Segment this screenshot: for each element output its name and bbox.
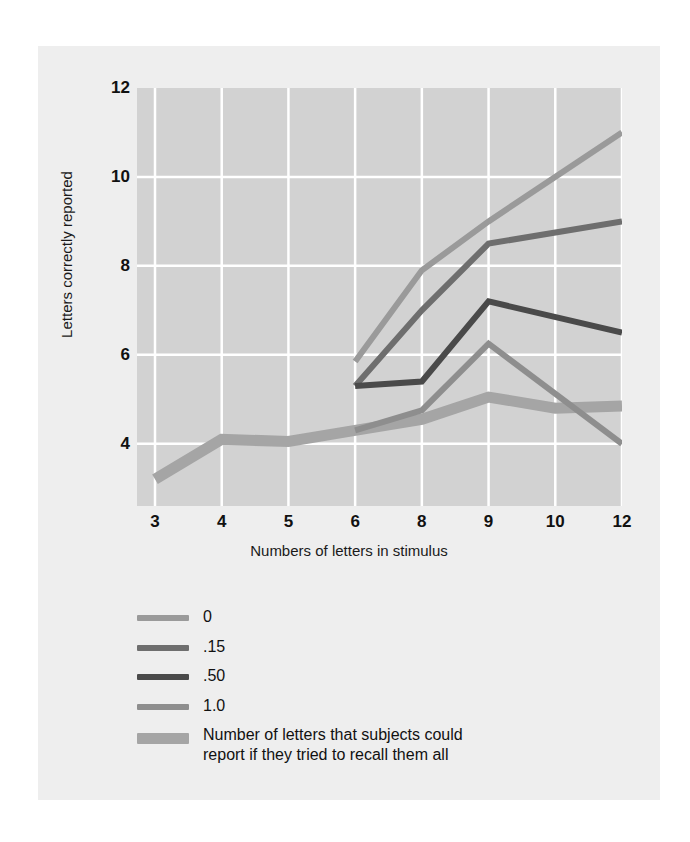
x-axis-tick: 5	[284, 512, 293, 532]
legend-item: .15	[137, 636, 637, 657]
legend-label-line2: report if they tried to recall them all	[203, 745, 463, 765]
y-axis-tick: 6	[88, 345, 130, 365]
legend-item: .50	[137, 665, 637, 686]
legend-swatch	[137, 704, 189, 710]
chart-legend: 0.15.501.0Number of letters that subject…	[137, 606, 637, 773]
y-axis-tick: 4	[88, 434, 130, 454]
legend-label: .50	[203, 665, 225, 686]
legend-swatch	[137, 645, 189, 651]
x-axis-tick: 9	[484, 512, 493, 532]
y-axis-tick: 12	[88, 78, 130, 98]
x-axis-tick-labels: 3456891012	[137, 512, 622, 536]
legend-label: 1.0	[203, 695, 225, 716]
legend-label: 0	[203, 606, 212, 627]
series-line	[155, 397, 622, 479]
y-axis-tick-labels: 4681012	[88, 46, 130, 486]
legend-label: Number of letters that subjects couldrep…	[203, 724, 463, 764]
y-axis-tick: 8	[88, 256, 130, 276]
legend-swatch	[137, 615, 189, 621]
plot-area	[137, 88, 622, 506]
x-axis-tick: 10	[546, 512, 565, 532]
figure-panel: Letters correctly reported 4681012 34568…	[38, 46, 660, 800]
x-axis-tick: 6	[350, 512, 359, 532]
x-axis-label: Numbers of letters in stimulus	[38, 542, 660, 559]
legend-item: Number of letters that subjects couldrep…	[137, 724, 637, 764]
legend-swatch	[137, 733, 189, 744]
x-axis-tick: 4	[217, 512, 226, 532]
x-axis-tick: 3	[150, 512, 159, 532]
legend-item: 0	[137, 606, 637, 627]
y-axis-tick: 10	[88, 167, 130, 187]
x-axis-tick: 12	[613, 512, 632, 532]
data-series	[155, 132, 622, 479]
y-axis-label: Letters correctly reported	[58, 105, 75, 405]
x-axis-tick: 8	[417, 512, 426, 532]
legend-swatch	[137, 674, 189, 680]
plot-block: Letters correctly reported 4681012 34568…	[38, 46, 660, 546]
legend-item: 1.0	[137, 695, 637, 716]
chart-svg	[137, 88, 622, 506]
legend-label: .15	[203, 636, 225, 657]
